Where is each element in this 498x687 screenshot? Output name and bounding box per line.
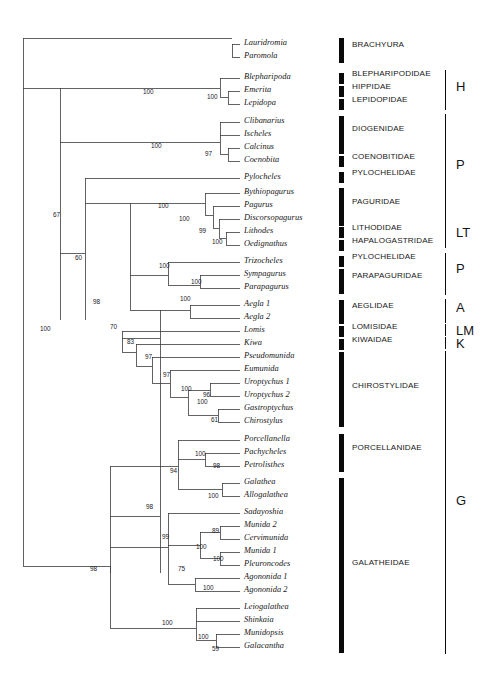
bootstrap-support-value: 67 (53, 212, 60, 218)
group-range-line (445, 114, 446, 226)
family-label: GALATHEIDAE (352, 559, 410, 567)
family-range-bar (339, 99, 344, 110)
taxon-label: Lauridromia (244, 39, 287, 47)
bootstrap-support-value: 59 (212, 646, 219, 652)
taxon-label: Aegla 1 (244, 300, 270, 308)
taxon-label: Agononida 2 (244, 586, 288, 594)
taxon-label: Petrolisthes (244, 461, 284, 469)
bootstrap-support-value: 100 (203, 585, 214, 591)
family-label: HAPALOGASTRIDAE (352, 237, 433, 245)
group-letter-label: G (456, 494, 466, 507)
group-range-line (445, 299, 446, 323)
bootstrap-support-value: 60 (75, 255, 82, 261)
family-range-bar (339, 156, 344, 167)
family-label: CHIROSTYLIDAE (352, 382, 419, 390)
family-label: PYLOCHELIDAE (352, 169, 416, 177)
family-range-bar (339, 86, 344, 97)
family-label: LITHODIDAE (352, 224, 402, 232)
group-letter-label: H (456, 80, 465, 93)
family-range-bar (339, 240, 344, 251)
bootstrap-support-value: 100 (208, 493, 219, 499)
bootstrap-support-value: 100 (151, 143, 162, 149)
bootstrap-support-value: 75 (178, 566, 185, 572)
group-letter-label: P (456, 158, 465, 171)
group-letter-label: LT (456, 226, 470, 239)
taxon-label: Bythiopagurus (244, 188, 294, 196)
bootstrap-support-value: 97 (163, 372, 170, 378)
bootstrap-support-value: 100 (207, 94, 218, 100)
bootstrap-support-value: 98 (146, 504, 153, 510)
bootstrap-support-value: 70 (110, 324, 117, 330)
family-label: PAGURIDAE (352, 198, 400, 206)
bootstrap-support-value: 94 (170, 468, 177, 474)
taxon-label: Gastroptychus (244, 404, 293, 412)
bootstrap-support-value: 100 (143, 89, 154, 95)
family-range-bar (339, 478, 344, 653)
family-range-bar (339, 269, 344, 294)
taxon-label: Pylocheles (244, 173, 281, 181)
family-label: DIOGENIDAE (352, 125, 404, 133)
bootstrap-support-value: 100 (196, 544, 207, 550)
taxon-label: Agononida 1 (244, 573, 288, 581)
taxon-label: Munida 2 (244, 521, 277, 529)
bootstrap-support-value: 98 (90, 566, 97, 572)
group-range-line (445, 337, 446, 349)
taxon-label: Munida 1 (244, 547, 277, 555)
group-range-line (445, 253, 446, 295)
family-range-bar (339, 188, 344, 226)
bootstrap-support-value: 99 (162, 534, 169, 540)
bootstrap-support-value: 98 (93, 299, 100, 305)
taxon-label: Chirostylus (244, 417, 283, 425)
taxon-label: Blepharipoda (244, 73, 291, 81)
family-label: LOMISIDAE (352, 323, 397, 331)
family-label: PARAPAGURIDAE (352, 272, 422, 280)
taxon-label: Kiwa (244, 339, 262, 347)
family-range-bar (339, 38, 344, 63)
taxon-label: Emerita (244, 86, 271, 94)
taxon-label: Discorsopagurus (244, 214, 302, 222)
taxon-label: Shinkaia (244, 616, 274, 624)
taxon-label: Munidopsis (244, 629, 284, 637)
taxon-label: Clibanarius (244, 117, 285, 125)
taxon-label: Pleuroncodes (244, 560, 290, 568)
taxon-label: Galacantha (244, 642, 284, 650)
taxon-label: Lepidopa (244, 99, 276, 107)
taxon-label: Parapagurus (244, 283, 289, 291)
family-label: PORCELLANIDAE (352, 444, 422, 452)
taxon-label: Calcinus (244, 143, 274, 151)
taxon-label: Paromola (244, 52, 278, 60)
taxon-label: Porcellanella (244, 435, 290, 443)
bootstrap-support-value: 100 (40, 326, 51, 332)
taxon-label: Coenobita (244, 156, 279, 164)
group-range-line (445, 224, 446, 248)
family-label: KIWAIDAE (352, 336, 392, 344)
taxon-label: Oedignathus (244, 240, 287, 248)
bootstrap-support-value: 100 (212, 239, 223, 245)
bootstrap-support-value: 99 (199, 228, 206, 234)
taxon-label: Lomis (244, 326, 265, 334)
family-range-bar (339, 227, 344, 238)
taxon-label: Sadayoshia (244, 508, 283, 516)
group-letter-label: A (456, 301, 465, 314)
taxon-label: Pseudomunida (244, 352, 294, 360)
family-label: AEGLIDAE (352, 302, 394, 310)
bootstrap-support-value: 100 (198, 634, 209, 640)
bootstrap-support-value: 89 (212, 528, 219, 534)
taxon-label: Allogalathea (244, 491, 288, 499)
bootstrap-support-value: 100 (195, 451, 206, 457)
bootstrap-support-value: 100 (180, 296, 191, 302)
bootstrap-support-value: 98 (213, 463, 220, 469)
group-range-line (445, 70, 446, 110)
taxon-label: Pachycheles (244, 448, 286, 456)
bootstrap-support-value: 100 (181, 386, 192, 392)
phylogenetic-tree-figure: LauridromiaParomolaBlepharipodaEmeritaLe… (0, 0, 498, 687)
bootstrap-support-value: 100 (162, 620, 173, 626)
family-label: PYLOCHELIDAE (352, 253, 416, 261)
family-label: COENOBITIDAE (352, 153, 415, 161)
taxon-label: Lithodes (244, 227, 273, 235)
family-range-bar (339, 434, 344, 472)
bootstrap-support-value: 100 (159, 263, 170, 269)
family-range-bar (339, 352, 344, 427)
taxon-label: Eumunida (244, 365, 279, 373)
bootstrap-support-value: 97 (205, 151, 212, 157)
